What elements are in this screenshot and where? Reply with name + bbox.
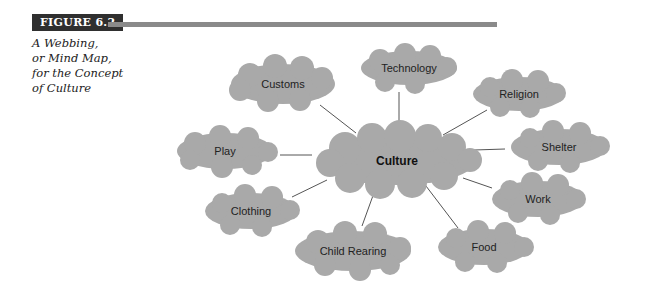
node-work: Work [525,193,550,205]
node-clothing: Clothing [231,205,271,217]
node-play: Play [214,145,235,157]
node-child-rearing: Child Rearing [320,245,387,257]
node-culture: Culture [376,154,418,168]
node-customs: Customs [261,78,304,90]
node-religion: Religion [499,88,539,100]
node-shelter: Shelter [542,141,577,153]
node-food: Food [471,241,496,253]
node-technology: Technology [381,62,437,74]
